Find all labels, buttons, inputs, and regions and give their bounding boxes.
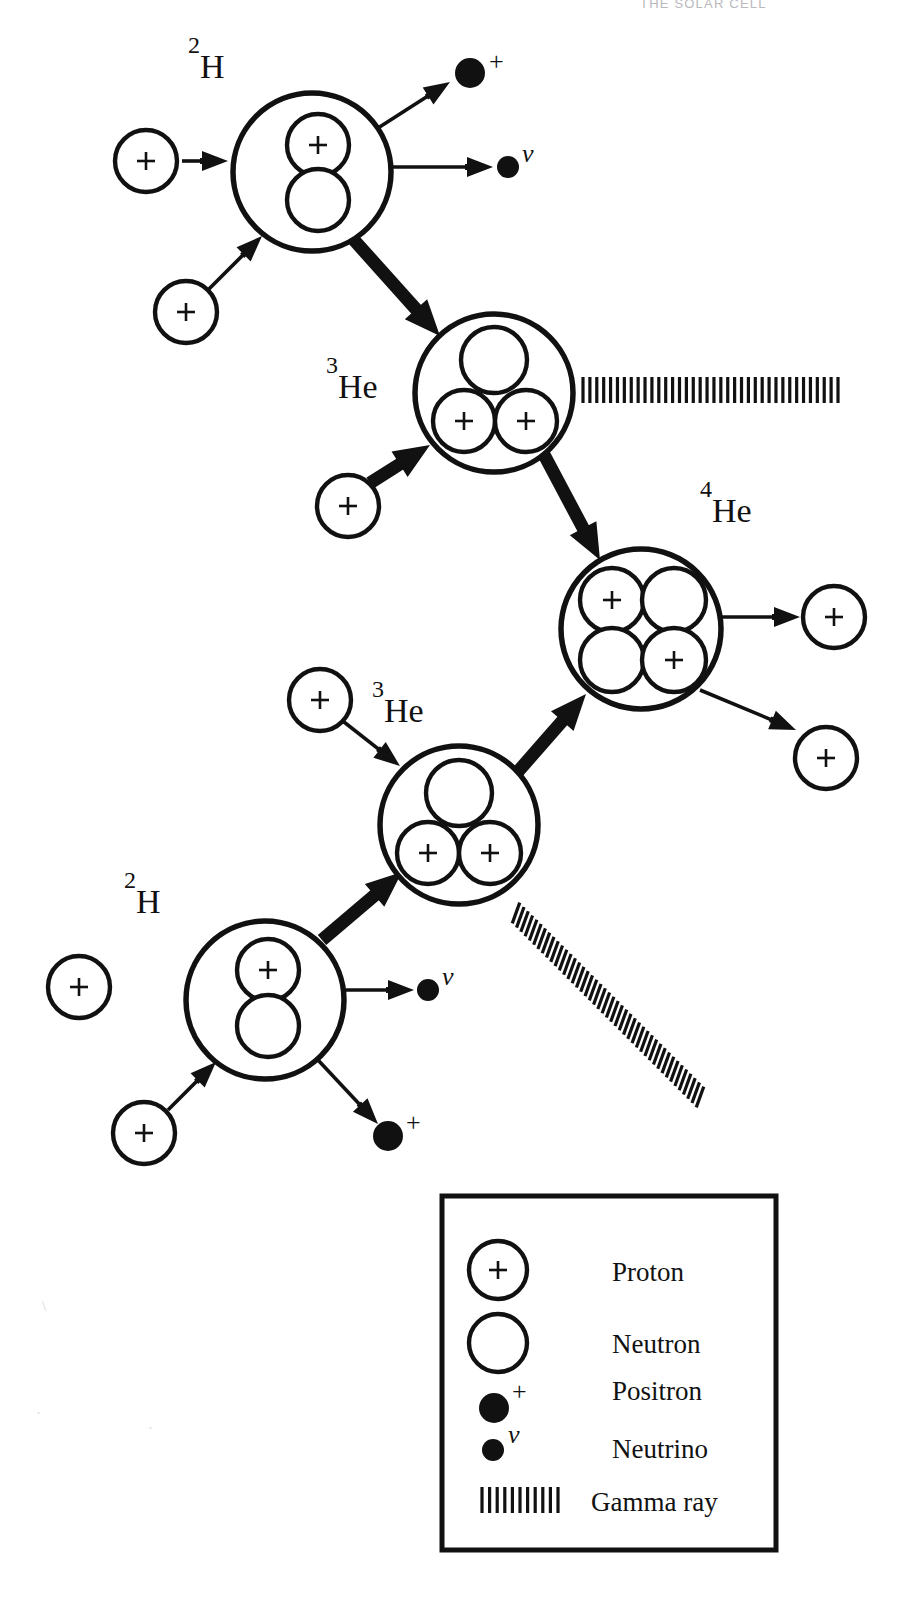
proton-in-bottom-1 [48,956,110,1018]
positron-dot-icon [455,58,485,88]
arrow-p-to-3He-lower-shaft [344,722,383,752]
positron-dot-icon [373,1121,403,1151]
legend-neutron-label: Neutron [612,1329,701,1359]
arrow-2H-top-to-3He [354,240,440,336]
mass-number: 4 [700,476,712,502]
nucleus-label-helium3-upper: 3He [326,352,378,405]
arrow-2H-bottom-to-positron-shaft [318,1060,363,1108]
arrow-2H-bottom-to-neutrino-head [386,980,414,1000]
arrow-2H-bottom-to-3He [322,872,402,940]
gamma-lower [512,903,703,1108]
neutrino-dot-icon [497,156,519,178]
legend-neutrino-label: Neutrino [612,1434,708,1464]
arrow-p1-to-2H-top [182,151,228,171]
legend-positron-label: Positron [612,1376,703,1406]
arrow-3He-upper-to-4He-head [570,521,600,560]
positron-charge-symbol: + [489,47,504,76]
nucleus-label-deuterium-top: 2H [188,32,225,85]
proton-out-he4-lower [795,727,857,789]
positron-top: + [455,47,504,88]
nucleus-helium4 [561,549,721,709]
arrow-4He-to-proton-right-head [772,607,800,627]
mass-number: 2 [124,867,136,893]
arrow-2H-top-to-neutrino-head [465,157,493,177]
neutrino-top: ν [497,139,534,178]
arrow-p2-to-2H-top-shaft [209,252,246,289]
arrow-p-to-3He-lower-head [373,742,400,766]
neutron-circle [287,169,349,231]
arrow-2H-top-to-positron [378,82,450,128]
proton-in-he3-lower [289,669,351,731]
arrow-p2-to-2H-top [209,236,262,289]
proton-in-top-2 [155,281,217,343]
neutrino-nu-symbol: ν [442,962,454,991]
arrow-2H-top-to-3He-shaft [354,240,419,312]
legend-layer: ProtonNeutron+PositronνNeutrinoGamma ray [442,1196,776,1550]
nucleus-deuterium-bottom [186,921,344,1079]
legend-gamma-label: Gamma ray [591,1487,718,1517]
positron-charge-symbol: + [406,1108,421,1137]
element-symbol: He [384,692,424,729]
proton-in-bottom-2 [113,1102,175,1164]
gamma-upper [583,377,838,403]
nuclei-layer [186,93,721,1079]
neutron-circle [237,995,299,1057]
arrow-2H-top-to-positron-shaft [378,94,431,128]
neutron-circle-icon [469,1314,527,1372]
arrow-p-to-2H-bottom [168,1062,216,1110]
positron-bottom: + [373,1108,421,1151]
element-symbol: He [338,368,378,405]
neutrino-nu-symbol: ν [522,139,534,168]
mass-number: 3 [326,352,338,378]
nucleus-helium3-upper [415,314,573,472]
free-particle-layer: ++νν [48,47,865,1164]
arrow-2H-bottom-to-neutrino [345,980,414,1000]
arrow-p-to-3He-upper [370,445,430,483]
arrow-2H-bottom-to-3He-shaft [322,893,378,940]
nucleus-helium3-lower [380,746,538,904]
legend-proton-label: Proton [612,1257,685,1287]
neutron-circle [426,760,492,826]
neutrino-dot-icon [417,979,439,1001]
arrow-4He-to-proton-lower [700,690,796,730]
nucleus-label-helium4: 4He [700,476,752,529]
arrow-3He-upper-to-4He [540,447,600,560]
diagram-canvas: THE SOLAR CELL \ · · ++νν 2H3He4He3He2H … [0,0,916,1604]
proton-out-he4-right [803,586,865,648]
proton-in-he3-upper [317,475,379,537]
positron-dot-icon [479,1393,509,1423]
fusion-diagram: ++νν 2H3He4He3He2H ProtonNeutron+Positro… [0,0,916,1604]
neutron-circle [642,568,706,632]
arrow-4He-to-proton-right [722,607,800,627]
arrow-2H-top-to-neutrino [392,157,493,177]
nucleus-label-helium3-lower: 3He [372,676,424,729]
neutron-circle [461,327,527,393]
arrow-4He-to-proton-lower-shaft [700,690,776,722]
arrow-3He-upper-to-4He-shaft [540,447,585,532]
arrow-3He-lower-to-4He [515,694,586,775]
arrow-p1-to-2H-top-head [200,151,228,171]
neutrino-nu-symbol: ν [508,1420,520,1449]
arrow-3He-lower-to-4He-shaft [515,718,565,775]
arrow-2H-top-to-positron-head [423,82,450,104]
neutrino-dot-icon [482,1439,504,1461]
nucleus-deuterium-top [233,93,391,251]
arrow-4He-to-proton-lower-head [768,711,796,730]
neutron-circle [580,628,644,692]
positron-charge-symbol: + [512,1377,527,1406]
arrow-2H-bottom-to-positron [318,1060,378,1124]
neutrino-bottom: ν [417,962,454,1001]
mass-number: 3 [372,676,384,702]
arrow-p-to-2H-bottom-shaft [168,1078,200,1110]
proton-in-top-1 [115,130,177,192]
mass-number: 2 [188,32,200,58]
nucleus-label-deuterium-bottom: 2H [124,867,161,920]
element-symbol: H [136,883,161,920]
element-symbol: He [712,492,752,529]
element-symbol: H [200,48,225,85]
